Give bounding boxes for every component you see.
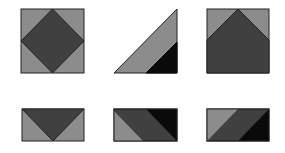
tile-right-triangle-with-black-corner — [114, 9, 177, 73]
tile-rectangle-with-diagonal-bands-b — [207, 109, 269, 141]
tile-square-with-peak — [207, 9, 269, 73]
tile-rectangle-with-diagonal-bands-a — [114, 109, 177, 141]
tile-rectangle-with-inverted-triangle — [22, 109, 84, 141]
tile-diagram — [0, 0, 285, 153]
tile-square-with-diamond — [21, 9, 84, 73]
